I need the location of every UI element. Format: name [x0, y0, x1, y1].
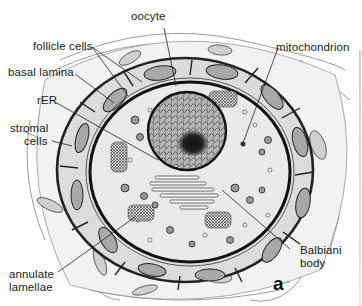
mitochondrion-marker: [241, 142, 246, 147]
right-edge-line: [359, 50, 361, 306]
oocyte-follicle-diagram: oocyte follicle cells basal lamina rER s…: [0, 0, 362, 306]
label-stromal-cells: stromal cells: [10, 122, 48, 148]
label-rer: rER: [37, 94, 57, 107]
nucleolus: [177, 128, 209, 156]
annulate-lamellae-right: [205, 212, 231, 228]
label-stromal-line1: stromal: [10, 122, 48, 135]
panel-letter: a: [273, 273, 284, 295]
label-balbiani-body: Balbiani body: [300, 244, 342, 270]
annulate-lamellae-left: [111, 142, 127, 172]
annulate-lamellae: [128, 205, 154, 221]
label-annulate-line1: annulate: [9, 268, 54, 281]
label-mitochondrion: mitochondrion: [276, 41, 350, 54]
label-annulate-lamellae: annulate lamellae: [9, 268, 54, 294]
label-follicle-cells: follicle cells: [33, 40, 93, 53]
label-balbiani-line2: body: [300, 257, 342, 270]
label-annulate-line2: lamellae: [9, 281, 54, 294]
label-basal-lamina: basal lamina: [8, 66, 74, 79]
label-stromal-line2: cells: [10, 135, 48, 148]
label-balbiani-line1: Balbiani: [300, 244, 342, 257]
label-oocyte: oocyte: [131, 10, 165, 23]
